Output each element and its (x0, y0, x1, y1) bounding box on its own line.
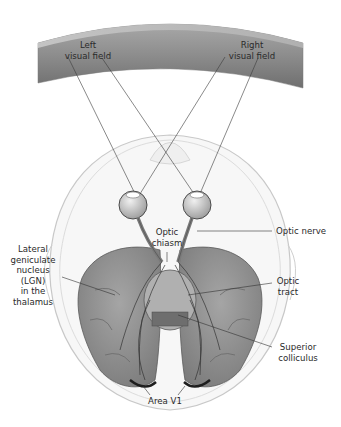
label-optic-tract: Optic tract (270, 276, 306, 297)
label-right-visual-field: Right visual field (222, 40, 282, 61)
label-optic-nerve: Optic nerve (276, 226, 326, 237)
left-eye (119, 191, 147, 219)
label-optic-chiasm: Optic chiasm (145, 227, 189, 248)
label-left-visual-field: Left visual field (58, 40, 118, 61)
label-area-v1: Area V1 (140, 396, 190, 407)
right-eye (183, 191, 211, 219)
label-lgn: Lateral geniculate nucleus (LGN) in the … (4, 244, 62, 307)
label-superior-colliculus: Superior colliculus (272, 342, 324, 363)
